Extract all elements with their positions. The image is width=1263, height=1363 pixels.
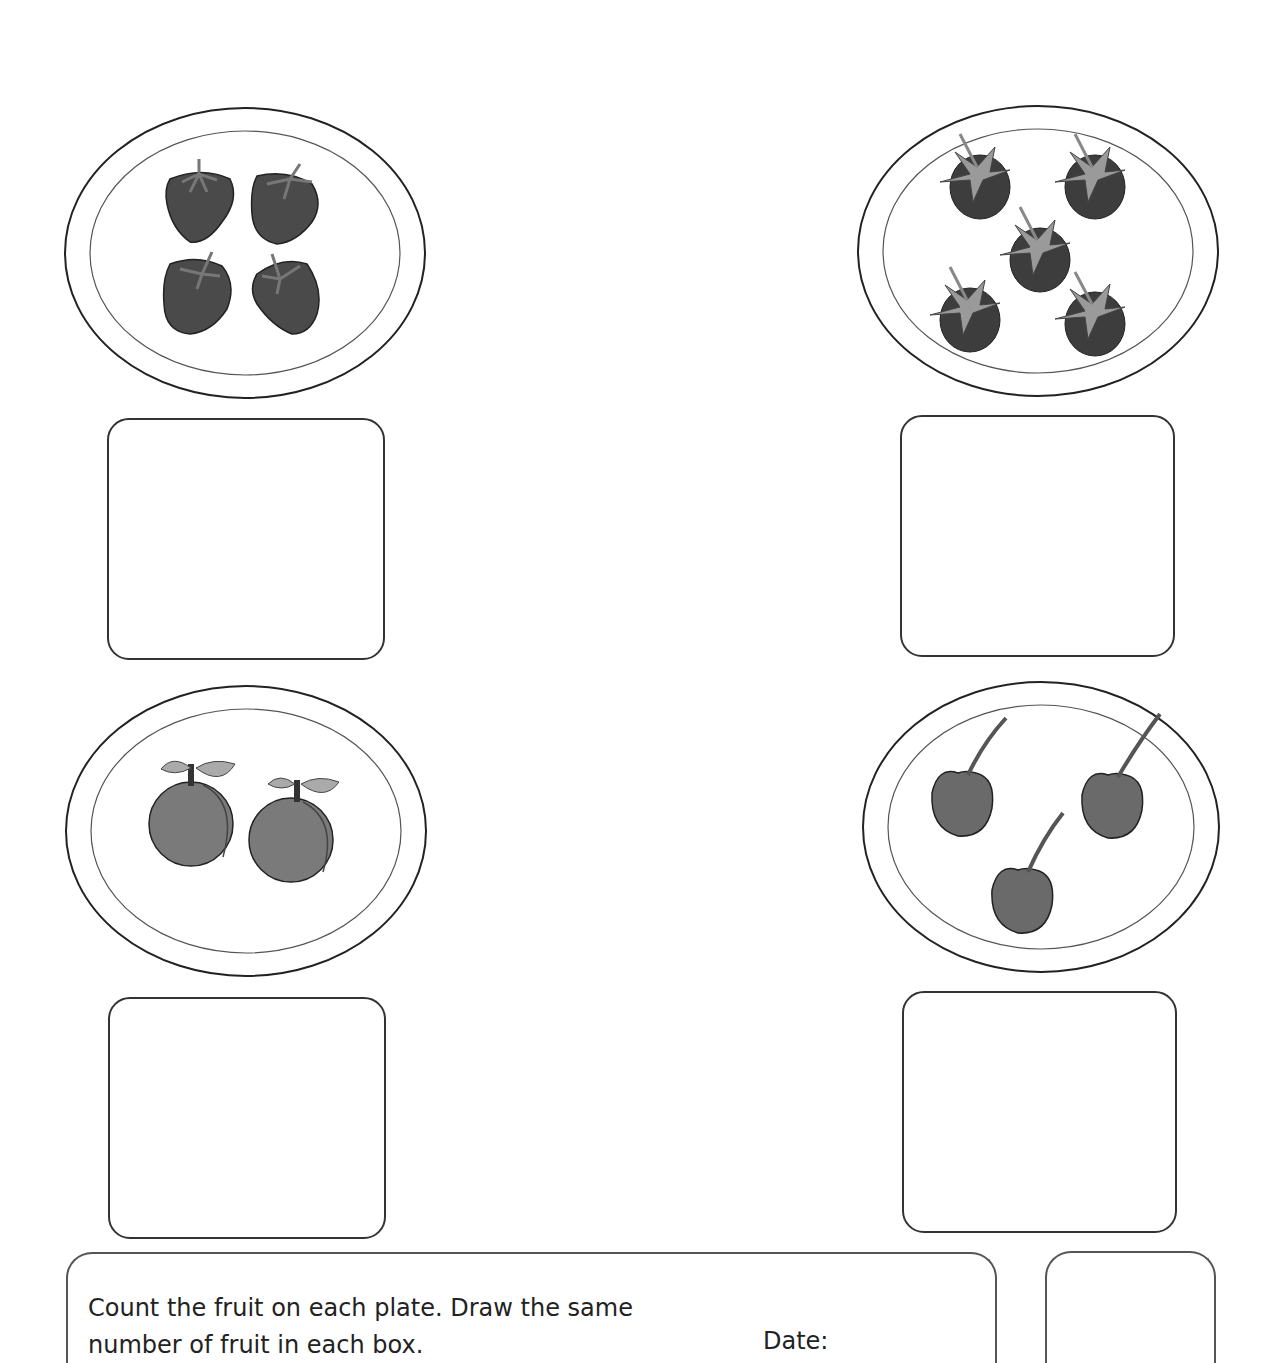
plate-cherries: [858, 678, 1224, 976]
drawing-box-blackberries[interactable]: [900, 415, 1175, 657]
date-label: Date:: [763, 1327, 828, 1355]
drawing-box-cherries[interactable]: [902, 991, 1177, 1233]
plate-blackberries: [855, 102, 1221, 400]
instructions-text: Count the fruit on each plate. Draw the …: [88, 1290, 708, 1363]
plate-peaches: [63, 682, 429, 980]
plate-strawberries: [62, 104, 428, 402]
drawing-box-peaches[interactable]: [108, 997, 386, 1239]
drawing-box-strawberries[interactable]: [107, 418, 385, 660]
score-box[interactable]: [1045, 1251, 1216, 1363]
